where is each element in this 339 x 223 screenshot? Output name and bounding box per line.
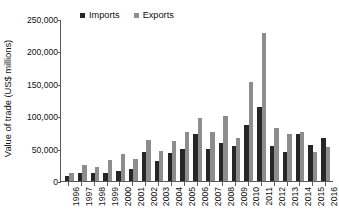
y-axis-tick-label: 150,000 [14, 81, 58, 90]
x-axis-label-slot: 2003 [152, 187, 165, 223]
x-axis-tick-mark [107, 182, 108, 186]
x-axis-tick-mark [132, 182, 133, 186]
bar-exports-2015 [313, 152, 317, 181]
bar-group [63, 20, 76, 181]
x-axis-label-slot: 1998 [88, 187, 101, 223]
bar-exports-1998 [95, 167, 99, 181]
bar-group [191, 20, 204, 181]
x-axis-tick-slot [255, 182, 268, 186]
bar-exports-2001 [133, 159, 137, 181]
x-axis-tick-slot [319, 182, 332, 186]
x-axis-tick-mark [299, 182, 300, 186]
x-axis-label-slot: 2001 [126, 187, 139, 223]
bar-group [319, 20, 332, 181]
x-axis-tick-mark [274, 182, 275, 186]
x-axis-tick-slot [268, 182, 281, 186]
x-axis-label-slot: 2013 [281, 187, 294, 223]
x-axis-tick-labels: 1996199719981999200020012002200320042005… [60, 187, 333, 223]
bar-exports-2003 [159, 151, 163, 181]
bar-group [268, 20, 281, 181]
bar-group [101, 20, 114, 181]
y-axis-tick-label: 100,000 [14, 113, 58, 122]
bar-exports-2006 [198, 118, 202, 181]
x-axis-tick-slot [126, 182, 139, 186]
bar-exports-2011 [262, 33, 266, 181]
bar-group [230, 20, 243, 181]
bar-group [306, 20, 319, 181]
y-axis-tick-label: 50,000 [14, 145, 58, 154]
x-axis-label-slot: 2010 [242, 187, 255, 223]
x-axis-tick-slot [306, 182, 319, 186]
x-axis-tick-mark [287, 182, 288, 186]
x-axis-label-slot: 2007 [203, 187, 216, 223]
x-axis-tick-slot [203, 182, 216, 186]
x-axis-label-slot: 2014 [293, 187, 306, 223]
x-axis-label-slot: 2009 [229, 187, 242, 223]
bar-exports-2014 [300, 132, 304, 181]
bar-exports-2008 [223, 116, 227, 181]
x-axis-tick-marks [60, 182, 333, 186]
bar-exports-2007 [210, 132, 214, 181]
bar-group [166, 20, 179, 181]
x-axis-label-slot: 2002 [139, 187, 152, 223]
x-axis-tick-mark [81, 182, 82, 186]
bar-exports-1997 [82, 165, 86, 181]
legend-swatch-icon [80, 13, 85, 18]
x-axis-label-slot: 1997 [75, 187, 88, 223]
bar-group [153, 20, 166, 181]
y-axis-tick-label: 200,000 [14, 48, 58, 57]
y-axis-tick-label: 250,000 [14, 16, 58, 25]
bar-exports-2000 [121, 154, 125, 181]
y-axis-title-text: Value of trade (US$ millions) [3, 39, 14, 156]
y-axis-tick-label: 0 [14, 178, 58, 187]
bar-exports-1996 [69, 173, 73, 181]
x-axis-tick-mark [222, 182, 223, 186]
bar-group [217, 20, 230, 181]
bar-exports-2004 [172, 141, 176, 181]
legend-swatch-icon [134, 13, 139, 18]
x-axis-label-slot: 1999 [101, 187, 114, 223]
bar-group [140, 20, 153, 181]
x-axis-tick-slot [216, 182, 229, 186]
y-axis-tick-mark [58, 117, 61, 118]
x-axis-tick-slot [229, 182, 242, 186]
bar-group [294, 20, 307, 181]
x-axis-tick-mark [197, 182, 198, 186]
plot-area [60, 20, 333, 182]
bar-group [114, 20, 127, 181]
bar-group [127, 20, 140, 181]
y-axis-tick-mark [58, 150, 61, 151]
bar-group [178, 20, 191, 181]
bar-group [204, 20, 217, 181]
x-axis-tick-mark [94, 182, 95, 186]
x-axis-tick-mark [248, 182, 249, 186]
x-axis-tick-slot [165, 182, 178, 186]
y-axis-tick-mark [58, 85, 61, 86]
x-axis-tick-mark [312, 182, 313, 186]
x-axis-label-slot: 2005 [178, 187, 191, 223]
bar-exports-2009 [236, 138, 240, 181]
bar-exports-2010 [249, 82, 253, 181]
bar-group [242, 20, 255, 181]
x-axis-tick-slot [191, 182, 204, 186]
bar-group [255, 20, 268, 181]
x-axis-tick-label: 2016 [330, 187, 339, 206]
x-axis-tick-mark [119, 182, 120, 186]
x-axis-tick-mark [68, 182, 69, 186]
x-axis-tick-slot [281, 182, 294, 186]
bar-exports-2005 [185, 132, 189, 181]
x-axis-tick-slot [139, 182, 152, 186]
x-axis-tick-slot [152, 182, 165, 186]
bar-exports-2012 [274, 128, 278, 181]
bar-group [281, 20, 294, 181]
x-axis-label-slot: 2011 [255, 187, 268, 223]
bar-group [76, 20, 89, 181]
x-axis-label-slot: 1996 [62, 187, 75, 223]
bar-exports-2002 [146, 140, 150, 181]
x-axis-tick-slot [178, 182, 191, 186]
x-axis-tick-mark [145, 182, 146, 186]
y-axis-tick-labels: 050,000100,000150,000200,000250,000 [14, 0, 58, 223]
x-axis-tick-mark [325, 182, 326, 186]
x-axis-tick-mark [261, 182, 262, 186]
y-axis-tick-mark [58, 52, 61, 53]
